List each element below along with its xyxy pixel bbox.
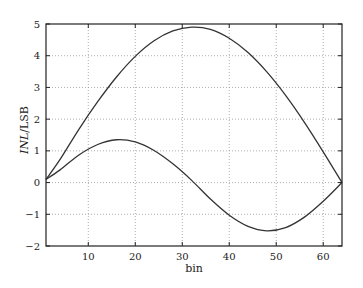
y-tick-label: 1 [34, 145, 40, 156]
chart-background [0, 0, 363, 288]
y-tick-label: 0 [34, 177, 40, 188]
x-tick-label: 50 [270, 251, 283, 262]
y-tick-label: −2 [25, 241, 40, 252]
y-axis-label-unit: /LSB [18, 106, 31, 133]
x-tick-label: 20 [129, 251, 142, 262]
y-tick-label: 2 [34, 114, 40, 125]
x-tick-label: 30 [176, 251, 189, 262]
x-tick-label: 40 [223, 251, 236, 262]
x-tick-label: 10 [82, 251, 95, 262]
x-tick-label: 60 [317, 251, 330, 262]
x-axis-label: bin [185, 262, 203, 275]
y-axis-label-italic: INL [18, 133, 31, 155]
inl-chart: 102030405060−2−1012345 bin INL/LSB [0, 0, 363, 288]
y-tick-label: 4 [34, 50, 40, 61]
y-tick-label: −1 [25, 209, 40, 220]
y-tick-label: 5 [34, 19, 40, 30]
y-tick-label: 3 [34, 82, 40, 93]
y-axis-label: INL/LSB [18, 106, 31, 155]
